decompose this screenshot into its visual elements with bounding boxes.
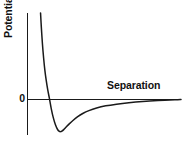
axes-group (27, 13, 181, 135)
y-axis-zero-tick-label: 0 (16, 93, 25, 104)
chart-canvas (0, 0, 182, 149)
y-axis-label: Potential energy (3, 0, 17, 38)
data-series-group (41, 13, 181, 132)
potential-energy-curve (41, 13, 181, 132)
x-axis-label: Separation (107, 80, 160, 91)
potential-energy-chart: Potential energy Separation 0 (0, 0, 182, 149)
